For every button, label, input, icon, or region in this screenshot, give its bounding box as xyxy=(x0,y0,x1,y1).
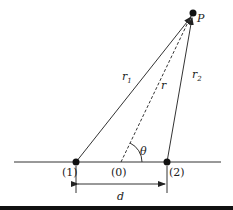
point-p-dot xyxy=(190,10,197,17)
point-1-dot xyxy=(73,159,80,166)
point-2-dot xyxy=(164,159,171,166)
label-theta: θ xyxy=(140,145,147,158)
label-p: P xyxy=(196,12,205,25)
bottom-rule xyxy=(0,206,233,210)
label-point-0: (0) xyxy=(111,166,127,179)
label-point-1: (1) xyxy=(62,166,78,179)
line-r-dashed xyxy=(121,16,191,162)
two-point-geometry-diagram: P r1 r r2 θ (1) (0) (2) d xyxy=(0,0,233,210)
label-r2: r2 xyxy=(192,68,202,83)
line-r1 xyxy=(76,17,191,162)
label-r1: r1 xyxy=(122,70,132,85)
label-r: r xyxy=(161,79,167,92)
label-d: d xyxy=(117,190,124,203)
label-point-2: (2) xyxy=(169,166,185,179)
